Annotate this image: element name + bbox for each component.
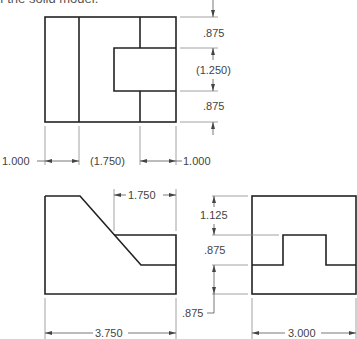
dim-side-875-low: .875 — [182, 307, 203, 319]
dim-top-1250: (1.250) — [196, 64, 231, 76]
dim-side-1125: 1.125 — [200, 209, 228, 221]
orthographic-drawing: .875 (1.250) .875 1.000 (1.750) 1.000 1.… — [0, 0, 357, 339]
top-view-outline — [45, 17, 176, 122]
side-view-step — [252, 235, 356, 265]
dim-front-3750: 3.750 — [95, 327, 123, 339]
dim-side-875-mid: .875 — [204, 244, 225, 256]
top-view-slot — [114, 48, 176, 91]
dim-top-875-upper: .875 — [203, 27, 224, 39]
dim-side-3000: 3.000 — [288, 327, 316, 339]
dim-top-1000-right: 1.000 — [183, 155, 211, 167]
side-view-outline — [252, 196, 356, 294]
dim-top-875-lower: .875 — [203, 100, 224, 112]
top-view: .875 (1.250) .875 1.000 (1.750) 1.000 — [2, 0, 231, 167]
front-view: 1.750 3.750 — [45, 189, 176, 339]
dim-top-1000-left: 1.000 — [2, 155, 30, 167]
front-view-slope — [45, 196, 176, 265]
dim-top-1750: (1.750) — [90, 155, 125, 167]
front-view-outline — [45, 196, 176, 294]
side-view: 1.125 .875 .875 3.000 — [182, 196, 356, 339]
dim-front-1750: 1.750 — [128, 189, 156, 201]
